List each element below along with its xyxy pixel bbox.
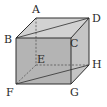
vertex-label-D: D bbox=[92, 12, 101, 25]
vertex-label-H: H bbox=[92, 58, 102, 71]
vertex-label-F: F bbox=[6, 86, 14, 99]
vertex-label-A: A bbox=[31, 3, 41, 16]
vertex-label-E: E bbox=[37, 53, 45, 66]
cube-diagram: A D B C E H F G bbox=[0, 0, 107, 107]
vertex-label-B: B bbox=[4, 33, 12, 46]
vertex-label-C: C bbox=[70, 37, 78, 50]
vertex-label-G: G bbox=[70, 86, 79, 99]
